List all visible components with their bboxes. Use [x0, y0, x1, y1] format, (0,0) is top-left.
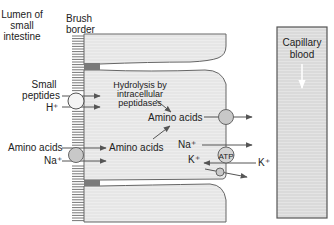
capillary-label-1: Capillary	[283, 37, 322, 48]
brush-border-microvilli	[72, 36, 84, 221]
na-plus-cell-label: Na⁺	[178, 139, 196, 150]
hydrolysis-label-3: peptidases	[118, 98, 162, 108]
tight-junction-lower	[84, 180, 100, 186]
amino-acid-basolateral-transporter	[219, 110, 234, 125]
h-plus-label: H⁺	[46, 102, 58, 113]
cell-top	[84, 34, 226, 64]
k-plus-blood-label: K⁺	[258, 157, 270, 168]
amino-acids-lumen-label: Amino acids	[8, 142, 62, 153]
lumen-label-1: Lumen of	[1, 9, 43, 20]
atp-label: ATP	[219, 152, 234, 161]
small-peptides-label-1: Small	[31, 79, 56, 90]
brush-border-label-1: Brush	[66, 13, 92, 24]
lumen-label-3: intestine	[3, 31, 41, 42]
amino-acids-cell-label: Amino acids	[109, 142, 163, 153]
peptide-transporter	[68, 93, 84, 109]
na-plus-lumen-label: Na⁺	[44, 155, 62, 166]
sodium-amino-acid-cotransporter	[69, 148, 84, 163]
tight-junction-upper	[84, 63, 100, 70]
amino-acids-upper-label: Amino acids	[148, 112, 202, 123]
capillary-label-2: blood	[290, 49, 314, 60]
k-plus-cell-label: K⁺	[188, 154, 200, 165]
lumen-label-2: small	[10, 20, 33, 31]
k-plus-channel	[216, 168, 224, 176]
cell-bottom	[84, 184, 226, 222]
brush-border-label-2: border	[66, 24, 96, 35]
small-peptides-label-2: peptides	[22, 90, 60, 101]
absorption-diagram: Capillary blood Lumen of small intestine…	[0, 0, 334, 225]
